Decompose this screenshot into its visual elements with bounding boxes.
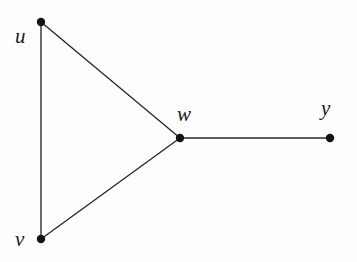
graph-edge-u-w xyxy=(41,22,180,138)
edge-layer xyxy=(41,22,330,239)
vertex-label-y: y xyxy=(321,98,330,119)
graph-edge-v-w xyxy=(41,138,180,239)
vertex-label-v: v xyxy=(15,229,24,250)
graph-canvas xyxy=(0,0,357,262)
vertex-label-u: u xyxy=(15,26,26,47)
graph-vertex-y[interactable] xyxy=(326,134,334,142)
graph-vertex-u[interactable] xyxy=(37,18,45,26)
graph-vertex-v[interactable] xyxy=(37,235,45,243)
graph-vertex-w[interactable] xyxy=(176,134,184,142)
graph-figure: uvwy xyxy=(0,0,357,262)
vertex-label-w: w xyxy=(177,104,191,125)
